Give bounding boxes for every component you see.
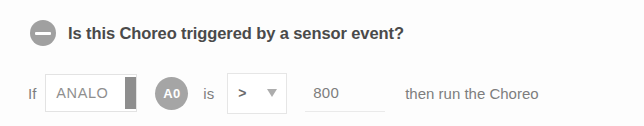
pin-badge[interactable]: A0 [155, 77, 188, 110]
condition-builder-row: If ANALO A0 is > 800 then run the Choreo [28, 72, 539, 114]
if-label: If [28, 85, 36, 102]
sensor-input[interactable]: ANALO [45, 74, 137, 112]
sensor-trigger-panel: Is this Choreo triggered by a sensor eve… [0, 0, 644, 126]
is-label: is [203, 85, 214, 102]
threshold-input-value: 800 [305, 84, 339, 101]
operator-select[interactable]: > [227, 73, 287, 114]
threshold-input[interactable]: 800 [305, 74, 385, 112]
operator-select-value: > [238, 85, 246, 101]
sensor-input-value: ANALO [46, 85, 108, 101]
vertical-scrollbar-thumb[interactable] [125, 77, 136, 109]
page-title: Is this Choreo triggered by a sensor eve… [68, 24, 404, 43]
minus-circle-icon[interactable] [30, 20, 56, 46]
then-run-choreo-label: then run the Choreo [405, 85, 538, 102]
caret-down-icon[interactable] [267, 89, 277, 97]
panel-header: Is this Choreo triggered by a sensor eve… [30, 17, 404, 49]
